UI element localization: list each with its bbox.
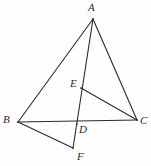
vertex-point-d xyxy=(76,123,78,125)
vertex-point-b xyxy=(17,121,19,123)
vertex-point-f xyxy=(72,147,74,149)
vertex-label-d: D xyxy=(79,124,87,135)
segment-ec xyxy=(81,88,137,120)
vertex-label-c: C xyxy=(140,115,147,126)
segments-group xyxy=(18,19,137,148)
vertices-group xyxy=(17,18,138,149)
geometry-figure: ABCDEF xyxy=(0,0,151,166)
vertex-point-a xyxy=(92,18,94,20)
segment-bf xyxy=(18,122,73,148)
vertex-label-e: E xyxy=(70,78,77,89)
segment-ac xyxy=(93,19,137,120)
segment-ab xyxy=(18,19,93,122)
vertex-point-c xyxy=(136,119,138,121)
vertex-label-b: B xyxy=(3,114,10,125)
vertex-label-f: F xyxy=(77,151,84,162)
vertex-point-e xyxy=(80,87,82,89)
vertex-label-a: A xyxy=(88,2,95,13)
